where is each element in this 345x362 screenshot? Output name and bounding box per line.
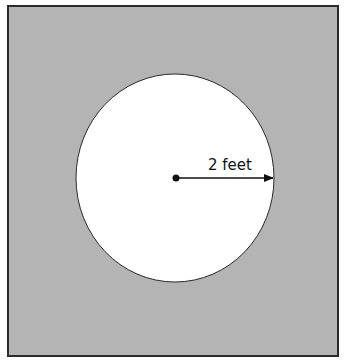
- circle-in-square-diagram: 2 feet: [0, 0, 345, 362]
- radius-label: 2 feet: [208, 156, 252, 174]
- diagram-canvas: 2 feet: [0, 0, 345, 362]
